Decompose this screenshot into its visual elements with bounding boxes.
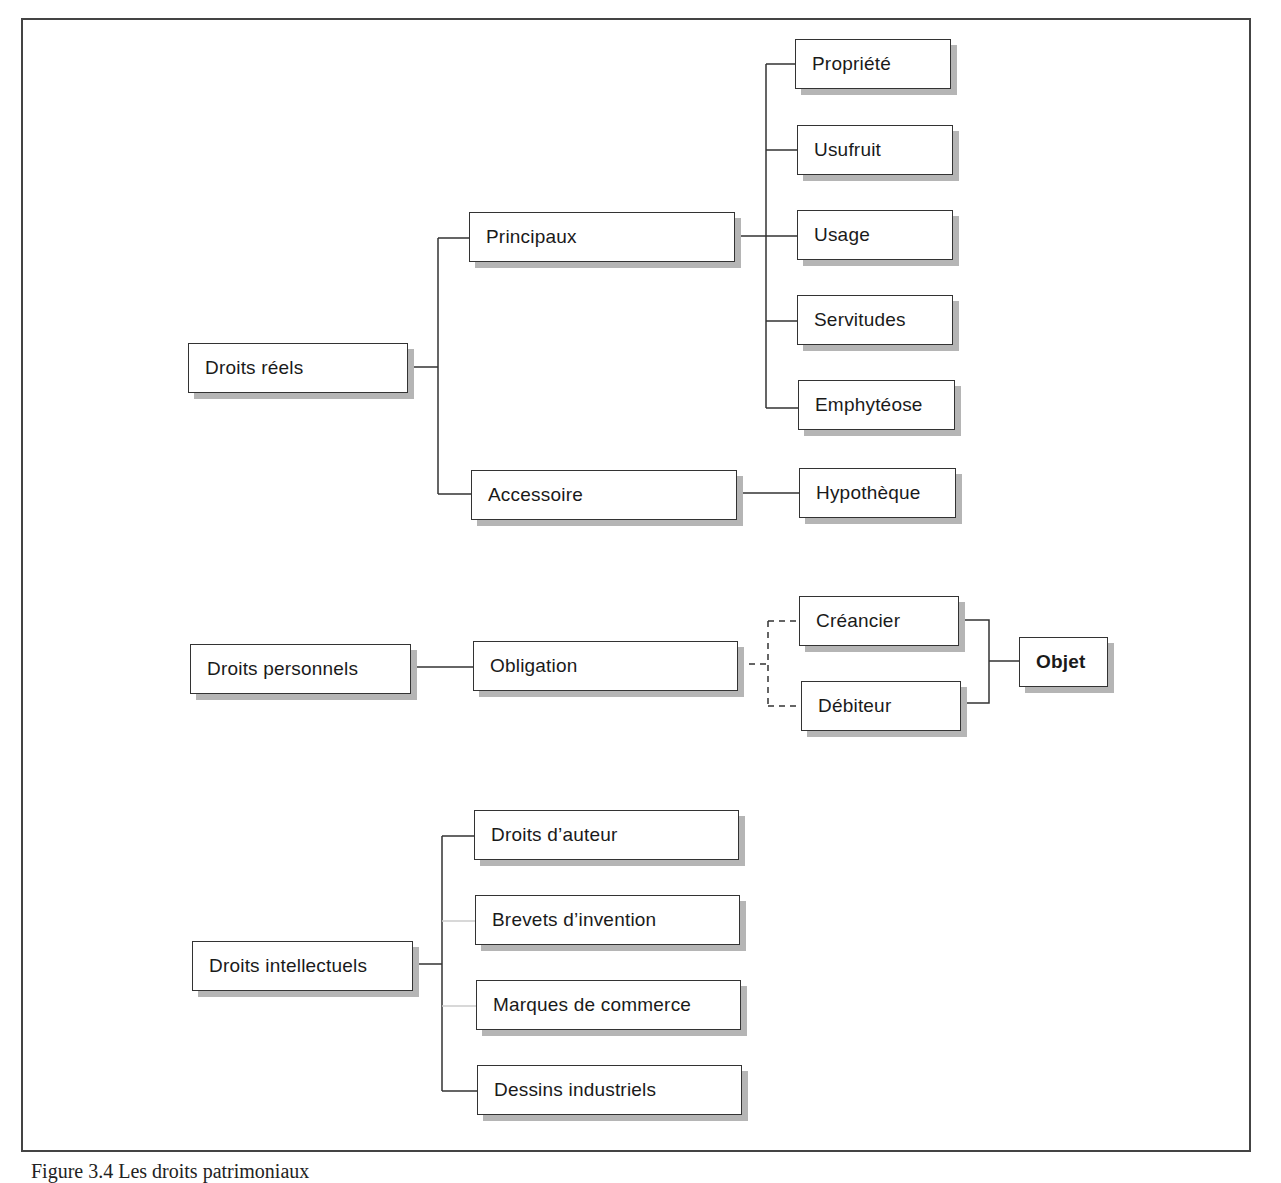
node-accessoire: Accessoire — [471, 470, 737, 520]
node-objet: Objet — [1019, 637, 1108, 687]
node-obligation: Obligation — [473, 641, 738, 691]
connector-intellectuels — [413, 836, 477, 1091]
node-marques: Marques de commerce — [476, 980, 741, 1030]
node-servitudes: Servitudes — [797, 295, 953, 345]
figure-caption: Figure 3.4 Les droits patrimoniaux — [31, 1160, 309, 1183]
node-propriete: Propriété — [795, 39, 951, 89]
connector-reels — [408, 238, 471, 494]
node-droits-reels: Droits réels — [188, 343, 408, 393]
node-hypotheque: Hypothèque — [799, 468, 956, 518]
node-brevets: Brevets d’invention — [475, 895, 740, 945]
node-droits-intellectuels: Droits intellectuels — [192, 941, 413, 991]
connector-objet — [959, 620, 1019, 703]
node-usage: Usage — [797, 210, 953, 260]
node-usufruit: Usufruit — [797, 125, 953, 175]
connector-principaux — [735, 64, 798, 408]
node-debiteur: Débiteur — [801, 681, 961, 731]
connector-obligation-dashed — [738, 621, 801, 706]
connector-intellectuels-faint — [442, 921, 476, 1006]
node-dessins: Dessins industriels — [477, 1065, 742, 1115]
node-emphyteose: Emphytéose — [798, 380, 955, 430]
node-principaux: Principaux — [469, 212, 735, 262]
node-creancier: Créancier — [799, 596, 959, 646]
node-droits-personnels: Droits personnels — [190, 644, 411, 694]
node-droits-auteur: Droits d’auteur — [474, 810, 739, 860]
